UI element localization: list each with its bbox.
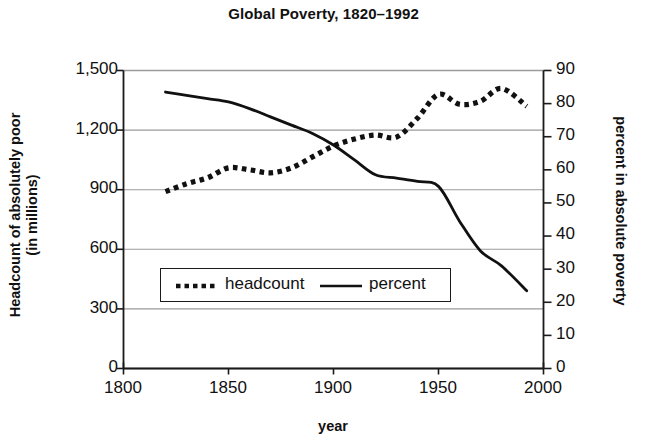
axis-lines (124, 71, 544, 369)
legend-item-percent: percent (319, 269, 426, 299)
legend-swatch-dotted-icon (175, 278, 219, 290)
legend-swatch-solid-icon (319, 278, 363, 290)
chart-figure: Global Poverty, 1820–1992 Headcount of a… (0, 0, 647, 445)
axis-ticks (117, 71, 552, 375)
legend-item-headcount: headcount (175, 269, 304, 299)
legend-label-percent: percent (369, 274, 426, 294)
series-line-headcount (166, 88, 527, 191)
legend-label-headcount: headcount (225, 274, 304, 294)
gridlines (124, 71, 544, 369)
series-line-percent (166, 92, 527, 291)
legend: headcount percent (160, 268, 451, 302)
plot-area (0, 0, 647, 445)
